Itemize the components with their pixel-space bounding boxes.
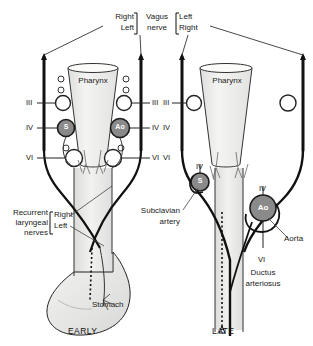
early-top-leader-left (140, 35, 141, 55)
top-label-left: Left (96, 23, 134, 32)
subclavian-label-line1: Subclavian (124, 206, 180, 215)
early-stomach-label: Stomach (92, 300, 124, 309)
early-arch-label-left-III: III (26, 99, 32, 107)
early-subclavian-mark: S (60, 123, 72, 130)
early-pharynx-rim (68, 64, 118, 73)
early-panel-graphics (37, 26, 150, 335)
early-arch3-right (117, 96, 132, 111)
early-arch3-left (56, 96, 71, 111)
early-pouch-3-right (118, 145, 124, 151)
diagram-canvas (0, 0, 313, 346)
early-pouch-1-right (123, 76, 129, 82)
late-pharynx-label: Pharynx (200, 76, 254, 85)
early-arch-label-right-III: III (152, 99, 158, 107)
early-arch-label-left-VI: VI (26, 154, 33, 162)
late-subclavian-label-leader (183, 188, 198, 210)
late-pharynx-rim (200, 64, 252, 73)
early-pouch-2-left (58, 87, 64, 93)
late-caption: LATE (212, 326, 234, 336)
late-arch3-right (280, 95, 296, 111)
top-label-right: Right (96, 12, 134, 21)
early-pouch-2-right (123, 87, 129, 93)
early-pouch-3-left (63, 145, 69, 151)
subclavian-label-line2: artery (124, 217, 180, 226)
late-arch-label-left-IV: IV (163, 124, 170, 132)
recurrent-label-line3: nerves (2, 228, 48, 237)
early-arch-label-right-IV: IV (152, 124, 159, 132)
recurrent-bracket-left: Left (54, 221, 67, 230)
late-subclavian-mark: S (194, 177, 206, 184)
top-label-right-2: Right (179, 23, 198, 32)
late-arch3-left (187, 96, 202, 111)
vagus-nerve-label-line2: nerve (139, 23, 175, 32)
early-trunk-arrow-left (138, 53, 144, 60)
late-panel-graphics (172, 26, 306, 336)
late-top-leader-right (210, 26, 303, 55)
late-arch-label-left-VI: VI (163, 154, 170, 162)
late-aorta-arch-label: IV (259, 185, 266, 193)
ductus-label-line2: arteriosus (230, 279, 296, 288)
late-ductus-arch-label: VI (258, 256, 265, 264)
top-label-left-2: Left (179, 12, 192, 21)
early-pharynx-label: Pharynx (66, 76, 120, 85)
early-pouch-1-left (58, 76, 64, 82)
late-top-leader (182, 35, 188, 55)
recurrent-label-line1: Recurrent (2, 208, 48, 217)
ductus-label-line1: Ductus (235, 268, 291, 277)
vagus-nerve-label-line1: Vagus (139, 12, 175, 21)
early-arch-label-left-IV: IV (26, 124, 33, 132)
recurrent-bracket (50, 212, 53, 234)
anatomical-figure: Right Left Vagus nerve Left Right Pharyn… (0, 0, 313, 346)
early-arch6-left (66, 150, 83, 167)
early-top-leader-right (44, 26, 103, 55)
late-subclavian-arch-label: IV (196, 163, 203, 171)
bracket-right-left (134, 13, 137, 34)
recurrent-label-line2: laryngeal (2, 218, 48, 227)
recurrent-bracket-right: Right (54, 210, 73, 219)
early-aorta-mark: Ao (112, 123, 128, 130)
aorta-label: Aorta (284, 234, 303, 243)
early-caption: EARLY (68, 326, 97, 336)
late-arch-label-left-III: III (163, 99, 169, 107)
early-arch-label-right-VI: VI (152, 154, 159, 162)
late-aorta-mark: Ao (255, 203, 271, 212)
